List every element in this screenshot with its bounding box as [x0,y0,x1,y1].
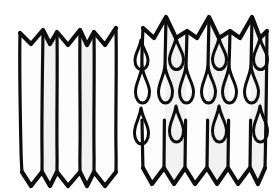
right-fold-line-2-upper [165,17,166,66]
right-fold-line-6-upper [251,17,252,66]
left-figure-plain-pleated-fold [20,28,117,186]
right-figure-teardrop-pleated-fold [135,17,268,184]
left-figure-panel-faces [20,28,116,186]
left-panel-face-5 [94,28,116,186]
right-fold-line-3-upper [186,31,187,66]
left-fold-line-2 [42,30,43,172]
left-panel-face-3 [57,30,80,186]
pleated-fold-illustration [0,0,277,196]
left-panel-face-1 [20,30,43,186]
right-fold-line-5-lower [228,120,229,168]
right-fold-line-3-lower [185,120,186,168]
right-fold-line-4-lower [207,120,208,168]
left-panel-face-4 [80,30,94,186]
right-fold-line-4-upper [208,17,209,66]
figure-canvas: Pleated accordion fold diagrams [0,0,277,196]
right-figure-bottom-pointed-edge [143,168,265,184]
right-fold-line-6-lower [250,120,251,168]
right-fold-line-5-upper [229,31,230,66]
left-figure-top-zigzag-edge [20,28,116,45]
